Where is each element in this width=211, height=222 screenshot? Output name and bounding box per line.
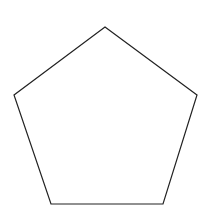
- pentagon-diagram: [0, 0, 211, 222]
- pentagon-shape: [14, 27, 197, 204]
